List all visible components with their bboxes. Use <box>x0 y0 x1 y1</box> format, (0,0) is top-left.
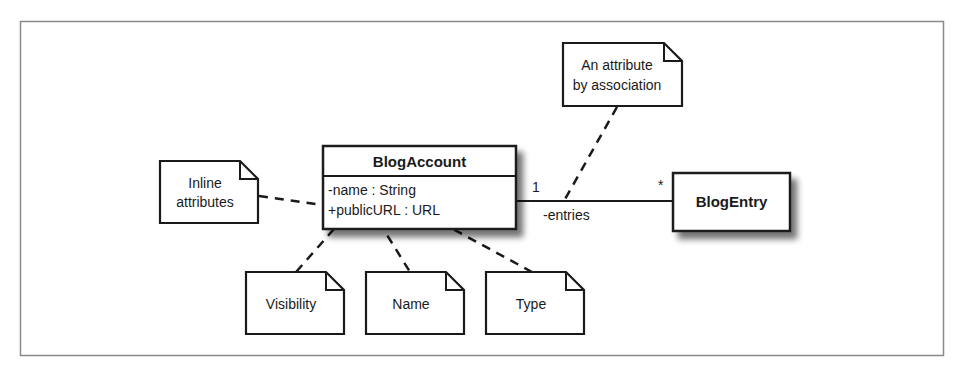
note-text-line: by association <box>573 77 662 93</box>
note-text: Visibility <box>266 296 316 312</box>
note-visibility[interactable]: Visibility <box>246 272 344 334</box>
class-blog-account[interactable]: BlogAccount -name : String +publicURL : … <box>323 146 516 229</box>
role-name: -entries <box>543 207 590 223</box>
note-text: Type <box>516 296 547 312</box>
class-blog-entry[interactable]: BlogEntry <box>673 173 790 231</box>
blog-account-attribute: -name : String <box>328 182 416 198</box>
blog-account-attribute: +publicURL : URL <box>328 202 440 218</box>
note-association[interactable]: An attribute by association <box>563 43 682 106</box>
note-text-line: An attribute <box>581 57 653 73</box>
target-multiplicity: * <box>658 177 664 193</box>
note-text-line: attributes <box>176 194 234 210</box>
source-multiplicity: 1 <box>532 179 540 195</box>
note-text-line: Inline <box>188 175 222 191</box>
blog-account-name: BlogAccount <box>373 153 466 170</box>
blog-entry-name: BlogEntry <box>696 193 768 210</box>
note-name[interactable]: Name <box>366 272 464 334</box>
note-inline-attributes[interactable]: Inline attributes <box>160 161 258 223</box>
uml-class-diagram: 1 * -entries BlogAccount -name : String … <box>0 0 966 369</box>
note-type[interactable]: Type <box>486 272 584 334</box>
note-shape <box>160 161 258 223</box>
note-text: Name <box>392 296 430 312</box>
